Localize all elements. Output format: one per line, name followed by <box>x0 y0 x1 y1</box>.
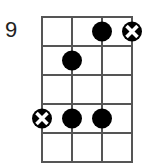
fretboard-diagram <box>0 0 150 167</box>
root-note-marker-icon <box>32 109 52 129</box>
note-dot-icon <box>92 22 112 42</box>
note-dot-icon <box>62 109 82 129</box>
fretboard-grid <box>41 17 133 162</box>
note-dot-icon <box>62 51 82 71</box>
root-note-marker-icon <box>122 22 142 42</box>
note-dot-icon <box>92 109 112 129</box>
